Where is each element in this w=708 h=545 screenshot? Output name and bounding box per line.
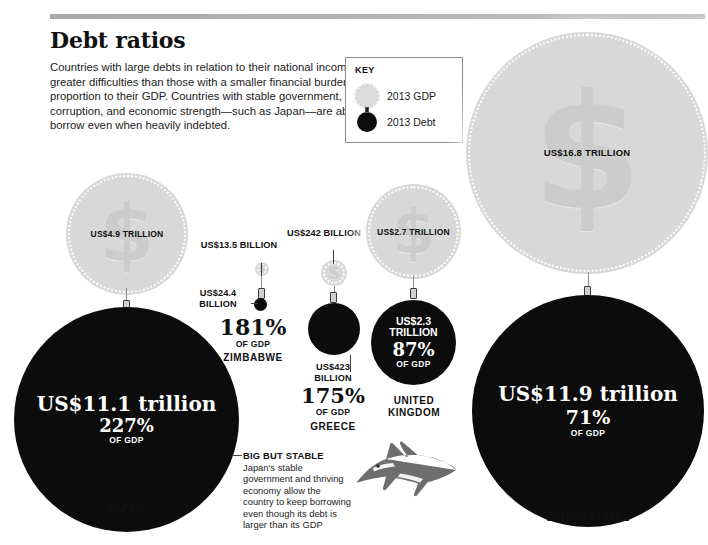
headline-block: Debt ratios Countries with large debts i… <box>50 27 380 133</box>
debt-ball-japan-amount: US$11.1 trillion <box>37 394 217 414</box>
legend-title: KEY <box>355 65 375 75</box>
debt-ball-uk-ofgdp: OF GDP <box>396 359 430 369</box>
debt-ball-zimbabwe[interactable] <box>254 298 267 311</box>
legend-item-debt-label: 2013 Debt <box>387 116 435 128</box>
gdp-balloon-zimbabwe[interactable]: $ <box>255 262 269 276</box>
debt-pct-zimbabwe: 181% <box>203 316 303 338</box>
gdp-balloon-japan-label: US$4.9 TRILLION <box>91 229 164 239</box>
gdp-label-greece: US$242 BILLION <box>286 228 362 239</box>
page-title: Debt ratios <box>50 27 380 53</box>
country-label-japan: JAPAN <box>66 503 186 515</box>
leader-line-greece-gdp <box>333 250 334 264</box>
country-label-uk-line1: UNITED <box>394 395 435 406</box>
top-divider-rule <box>50 14 705 19</box>
dollar-sign-icon: $ <box>328 265 340 282</box>
gdp-balloon-uk-label: US$2.7 TRILLION <box>377 227 450 237</box>
country-label-uk-line2: KINGDOM <box>388 407 440 418</box>
debt-ball-greece[interactable] <box>308 303 360 355</box>
dollar-sign-icon: $ <box>259 264 266 274</box>
debt-ball-uk-pct: 87% <box>392 341 434 359</box>
gdp-balloon-usa-label: US$16.8 TRILLION <box>544 148 631 158</box>
gdp-balloon-greece[interactable]: $ <box>321 260 347 286</box>
gdp-balloon-japan[interactable]: $ US$4.9 TRILLION <box>66 173 188 295</box>
debt-ball-uk[interactable]: US$2.3 TRILLION 87% OF GDP <box>371 300 456 385</box>
debt-label-zimbabwe: US$24.4 BILLION <box>185 288 251 309</box>
gdp-label-zimbabwe: US$13.5 BILLION <box>200 240 278 251</box>
debt-ball-japan-pct: 227% <box>99 417 154 435</box>
debt-ball-uk-amount: US$2.3 TRILLION <box>383 316 445 339</box>
leader-line-zimbabwe-debt <box>251 303 258 304</box>
gdp-balloon-uk[interactable]: $ US$2.7 TRILLION <box>366 184 461 279</box>
legend-key-box: KEY 2013 GDP 2013 Debt <box>345 57 463 143</box>
gdp-balloon-usa[interactable]: $ US$16.8 TRILLION <box>466 32 708 274</box>
debt-ball-usa-amount: US$11.9 trillion <box>498 384 678 404</box>
legend-item-debt: 2013 Debt <box>355 110 435 134</box>
balloon-knot-greece <box>330 292 337 303</box>
legend-item-gdp-label: 2013 GDP <box>387 90 436 102</box>
shark-illustration <box>356 440 460 502</box>
debt-ball-usa-ofgdp: OF GDP <box>571 428 605 438</box>
country-label-uk: UNITED KINGDOM <box>368 395 460 419</box>
annotation-body: Japan's stable government and thriving e… <box>243 462 351 530</box>
debt-ball-usa[interactable]: US$11.9 trillion 71% OF GDP <box>472 295 704 527</box>
country-label-usa: UNITED STATES <box>528 512 648 524</box>
annotation-big-but-stable: BIG BUT STABLE Japan's stable government… <box>243 450 351 530</box>
gdp-balloon-icon <box>355 84 379 108</box>
annotation-title: BIG BUT STABLE <box>243 450 351 461</box>
annotation-leader-line <box>232 455 242 456</box>
legend-item-gdp: 2013 GDP <box>355 84 436 108</box>
debt-ofgdp-greece: OF GDP <box>288 407 378 417</box>
standfirst-text: Countries with large debts in relation t… <box>50 60 380 133</box>
debt-pct-greece: 175% <box>288 385 378 406</box>
debt-ball-japan-ofgdp: OF GDP <box>109 435 143 445</box>
debt-label-greece: US$423 BILLION <box>298 362 368 383</box>
country-label-zimbabwe: ZIMBABWE <box>203 352 303 364</box>
balloon-knot-uk <box>410 288 417 299</box>
debt-ball-icon <box>355 110 379 134</box>
debt-ofgdp-zimbabwe: OF GDP <box>203 339 303 349</box>
country-label-greece: GREECE <box>288 421 378 433</box>
debt-ball-usa-pct: 71% <box>566 408 611 427</box>
infographic-canvas: '); mask-image: url('data:image/svg+xml;… <box>0 0 708 545</box>
